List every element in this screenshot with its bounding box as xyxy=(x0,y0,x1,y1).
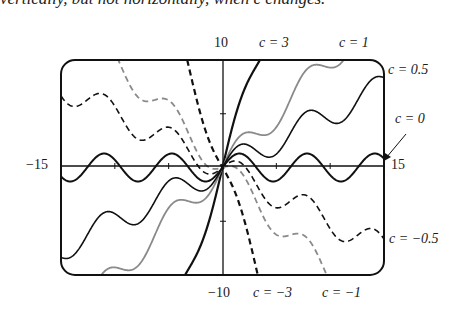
plot-area xyxy=(0,0,462,309)
y-max-label: 10 xyxy=(214,36,228,50)
label-c0: c = 0 xyxy=(395,112,425,126)
label-c3: c = 3 xyxy=(259,36,289,50)
label-c1: c = 1 xyxy=(339,36,369,50)
x-min-label: −15 xyxy=(26,158,48,172)
arrowhead-icon xyxy=(384,153,391,161)
label-cm05: c = −0.5 xyxy=(389,232,439,246)
c0-pointer-arrow xyxy=(386,134,406,158)
y-min-label: −10 xyxy=(208,286,230,300)
label-cm1: c = −1 xyxy=(322,286,361,300)
x-max-label: 15 xyxy=(391,158,405,172)
label-cm3: c = −3 xyxy=(253,286,292,300)
label-c05: c = 0.5 xyxy=(388,63,428,77)
